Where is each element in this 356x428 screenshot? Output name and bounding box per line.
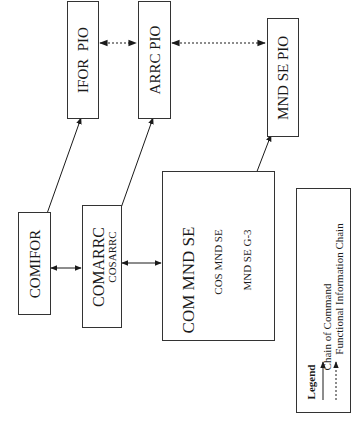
node-com-mnd-se: COM MND SE COS MND SE MND SE G-3: [162, 171, 275, 341]
node-label: COMIFOR: [26, 229, 43, 297]
node-comarrc: COMARRC COSARRC: [82, 205, 122, 328]
node-line-2: MND SE G-3: [241, 229, 253, 290]
node-line-1: COS MND SE: [212, 229, 224, 294]
legend-title: Legend: [305, 365, 317, 400]
node-label: COM MND SE: [179, 227, 199, 334]
node-label: IFOR PIO: [75, 27, 92, 93]
legend-item-chain-of-command: Chain of Command: [321, 284, 333, 371]
node-label: MND SE PIO: [275, 35, 292, 119]
node-mnd-se-pio: MND SE PIO: [267, 18, 299, 137]
legend: Legend Chain of Command Functional Infor…: [296, 188, 351, 413]
node-ifor-pio: IFOR PIO: [67, 1, 99, 119]
solid-arrow-comifor-iforpio: [44, 118, 81, 222]
node-comifor: COMIFOR: [18, 212, 51, 315]
legend-item-functional-information-chain: Functional Information Chain: [333, 223, 345, 354]
node-label: ARRC PIO: [146, 26, 163, 95]
node-arrc-pio: ARRC PIO: [138, 1, 171, 119]
node-sublabel: COSARRC: [106, 231, 118, 282]
